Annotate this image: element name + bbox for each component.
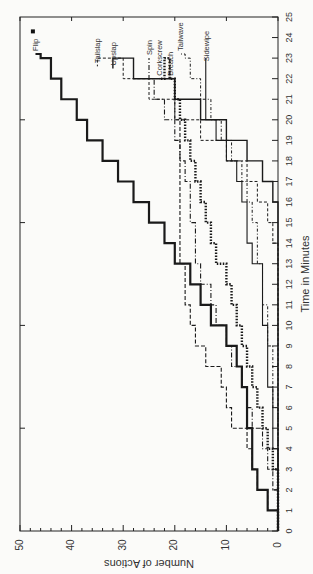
flip-end-marker (31, 29, 35, 33)
series-label-spin: Spin (145, 40, 154, 55)
time-tick-label: 7 (284, 385, 294, 390)
time-tick-label: 6 (284, 405, 294, 410)
time-tick-label: 12 (284, 279, 294, 289)
time-tick-label: 17 (284, 176, 294, 186)
time-tick-label: 1 (284, 508, 294, 513)
count-tick-label: 0 (272, 542, 283, 548)
time-tick-label: 4 (284, 446, 294, 451)
series-breach (170, 58, 278, 531)
time-tick-label: 8 (284, 364, 294, 369)
y-axis-label: Number of Actions (104, 558, 194, 570)
x-axis-label: Time in Minutes (299, 235, 311, 313)
series-label-sidewipe: Sidewipe (202, 31, 211, 61)
series-flip (35, 54, 278, 531)
time-tick-label: 14 (284, 238, 294, 248)
count-tick-label: 40 (65, 539, 76, 551)
time-tick-label: 15 (284, 218, 294, 228)
series-label-corkscrew: Corkscrew (155, 40, 164, 76)
time-tick-label: 22 (284, 74, 294, 84)
time-tick-label: 18 (284, 156, 294, 166)
time-tick-label: 3 (284, 467, 294, 472)
series-tailslap (97, 58, 278, 531)
time-tick-label: 9 (284, 343, 294, 348)
count-tick-label: 20 (168, 539, 179, 551)
time-tick-label: 10 (284, 320, 294, 330)
count-tick-label: 10 (220, 539, 231, 551)
time-tick-label: 21 (284, 94, 294, 104)
series-tailwave (180, 54, 278, 531)
time-tick-label: 5 (284, 426, 294, 431)
cumulative-actions-chart: 0123456789101112131415161718192021222324… (0, 0, 313, 574)
time-tick-label: 11 (284, 300, 294, 309)
time-tick-label: 23 (284, 53, 294, 63)
time-tick-label: 13 (284, 259, 294, 269)
series-label-tailwave: Tailwave (176, 22, 185, 51)
count-tick-label: 30 (117, 539, 128, 551)
series-corkscrew (159, 58, 278, 531)
series-label-upslap: Upslap (109, 42, 118, 65)
time-tick-label: 25 (284, 12, 294, 22)
time-tick-label: 0 (284, 528, 294, 533)
time-tick-label: 20 (284, 115, 294, 125)
time-tick-label: 16 (284, 197, 294, 207)
time-tick-label: 19 (284, 135, 294, 145)
series-label-tailslap: Tailslap (93, 38, 102, 63)
time-tick-label: 2 (284, 487, 294, 492)
count-tick-label: 50 (14, 539, 25, 551)
series-label-flip: Flip (31, 39, 40, 51)
time-tick-label: 24 (284, 33, 294, 43)
series-spin (149, 58, 278, 531)
